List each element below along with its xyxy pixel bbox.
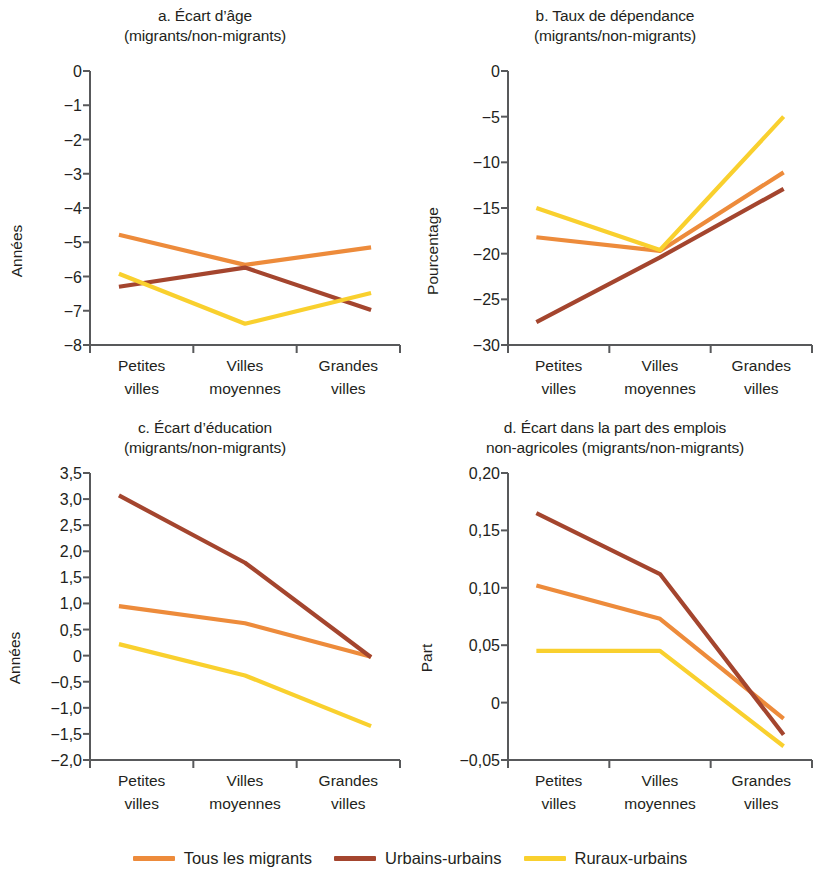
ytick-label-d: 0,05 — [469, 637, 500, 654]
ytick-label-a: −6 — [64, 269, 82, 286]
panel-d-ylabel-group: Part — [418, 643, 435, 672]
panel-c-title: c. Écart d’éducation (migrants/non-migra… — [0, 412, 410, 458]
ytick-label-a: −4 — [64, 200, 82, 217]
ytick-label-c: 2,0 — [60, 543, 82, 560]
panel-c-plot: Années 3,53,02,52,01,51,00,50−0,5−1,0−1,… — [0, 458, 410, 828]
panel-b-title-line2: (migrants/non-migrants) — [410, 26, 820, 46]
ytick-label-c: 3,0 — [60, 491, 82, 508]
ytick-label-b: −20 — [473, 246, 500, 263]
series-line-ruraux-urbains — [536, 117, 783, 250]
ytick-label-d: −0,05 — [460, 752, 501, 769]
chart-panel-a: a. Écart d’âge (migrants/non-migrants) A… — [0, 0, 410, 410]
ytick-label-d: 0,15 — [469, 522, 500, 539]
panel-d-title: d. Écart dans la part des emplois non-ag… — [410, 412, 820, 458]
panel-b-category-labels: PetitesvillesVillesmoyennesGrandesvilles — [535, 357, 791, 397]
xcat-label-c-0: Petites — [118, 772, 166, 789]
xcat-label-b-0-line2: villes — [541, 380, 576, 397]
panel-a-ytick-group: 0−1−2−3−4−5−6−7−8 — [64, 63, 90, 354]
panel-b-series-group — [536, 117, 783, 323]
ytick-label-b: −25 — [473, 291, 500, 308]
panel-d-category-labels: PetitesvillesVillesmoyennesGrandesvilles — [535, 772, 791, 812]
panel-d-ytick-group: 0,200,150,100,050−0,05 — [460, 465, 508, 769]
xcat-label-a-1-line2: moyennes — [209, 380, 281, 397]
xcat-label-d-2-line2: villes — [744, 795, 779, 812]
xcat-label-a-2: Grandes — [319, 357, 379, 374]
ytick-label-a: −7 — [64, 303, 82, 320]
xcat-label-d-0-line2: villes — [541, 795, 576, 812]
xcat-label-d-1: Villes — [642, 772, 679, 789]
ytick-label-c: 1,0 — [60, 595, 82, 612]
series-line-urbains-urbains — [536, 189, 783, 322]
panel-d-plot: Part 0,200,150,100,050−0,05 Petitesville… — [410, 458, 820, 828]
panel-a-ylabel-group: Années — [8, 224, 25, 277]
legend-swatch-1 — [334, 856, 376, 861]
ytick-label-d: 0 — [491, 695, 500, 712]
series-line-ruraux-urbains — [536, 651, 783, 746]
ytick-label-a: −8 — [64, 337, 82, 354]
xcat-label-b-1: Villes — [642, 357, 679, 374]
chart-panel-c: c. Écart d’éducation (migrants/non-migra… — [0, 412, 410, 832]
ytick-label-d: 0,20 — [469, 465, 500, 482]
legend-item-2: Ruraux-urbains — [524, 849, 688, 868]
xcat-label-b-2: Grandes — [732, 357, 792, 374]
panel-c-ytick-group: 3,53,02,52,01,51,00,50−0,5−1,0−1,5−2,0 — [50, 465, 90, 769]
ytick-label-c: 0,5 — [60, 622, 82, 639]
xcat-label-c-0-line2: villes — [124, 795, 159, 812]
xcat-label-d-1-line2: moyennes — [624, 795, 696, 812]
xcat-label-b-1-line2: moyennes — [624, 380, 696, 397]
ytick-label-c: 3,5 — [60, 465, 82, 482]
panel-a-title-line1: a. Écart d’âge — [158, 7, 252, 24]
panel-c-series-group — [119, 495, 371, 726]
legend-label-0: Tous les migrants — [184, 849, 312, 868]
legend-label-2: Ruraux-urbains — [575, 849, 688, 868]
panel-b-axis-title: Pourcentage — [424, 207, 441, 295]
xcat-label-c-1: Villes — [227, 772, 264, 789]
figure-root: a. Écart d’âge (migrants/non-migrants) A… — [0, 0, 820, 877]
legend-label-1: Urbains-urbains — [385, 849, 501, 868]
panel-b-ytick-group: 0−5−10−15−20−25−30 — [473, 63, 508, 354]
ytick-label-b: −30 — [473, 337, 500, 354]
xcat-label-c-1-line2: moyennes — [209, 795, 281, 812]
panel-c-axis-title: Années — [6, 631, 23, 684]
chart-panel-d: d. Écart dans la part des emplois non-ag… — [410, 412, 820, 832]
panel-b-title-line1: b. Taux de dépendance — [536, 7, 695, 24]
chart-legend: Tous les migrantsUrbains-urbainsRuraux-u… — [0, 840, 820, 877]
panel-a-title-line2: (migrants/non-migrants) — [0, 26, 410, 46]
ytick-label-b: 0 — [491, 63, 500, 80]
panel-d-axis-title: Part — [418, 643, 435, 672]
xcat-label-a-0-line2: villes — [124, 380, 159, 397]
legend-item-0: Tous les migrants — [133, 849, 312, 868]
ytick-label-c: 1,5 — [60, 569, 82, 586]
panel-d-xtick-group — [508, 760, 812, 768]
ytick-label-a: −5 — [64, 234, 82, 251]
series-line-ruraux-urbains — [119, 644, 371, 726]
panel-a-series-group — [119, 235, 371, 324]
xcat-label-a-2-line2: villes — [331, 380, 366, 397]
ytick-label-b: −15 — [473, 200, 500, 217]
ytick-label-a: −1 — [64, 97, 82, 114]
ytick-label-c: −0,5 — [50, 674, 82, 691]
legend-item-1: Urbains-urbains — [334, 849, 501, 868]
legend-swatch-2 — [524, 856, 566, 861]
xcat-label-d-2: Grandes — [732, 772, 792, 789]
ytick-label-c: 2,5 — [60, 517, 82, 534]
xcat-label-c-2-line2: villes — [331, 795, 366, 812]
panel-b-plot: Pourcentage 0−5−10−15−20−25−30 Petitesvi… — [410, 46, 820, 406]
panel-b-ylabel-group: Pourcentage — [424, 207, 441, 295]
panel-d-series-group — [536, 513, 783, 746]
ytick-label-c: 0 — [73, 648, 82, 665]
series-line-urbains-urbains — [119, 495, 371, 657]
panel-a-plot: Années 0−1−2−3−4−5−6−7−8 PetitesvillesVi… — [0, 46, 410, 406]
ytick-label-c: −1,0 — [50, 700, 82, 717]
xcat-label-b-0: Petites — [535, 357, 583, 374]
xcat-label-c-2: Grandes — [319, 772, 379, 789]
series-line-urbains-urbains — [536, 513, 783, 735]
ytick-label-c: −2,0 — [50, 752, 82, 769]
panel-c-title-line2: (migrants/non-migrants) — [0, 438, 410, 458]
xcat-label-b-2-line2: villes — [744, 380, 779, 397]
xcat-label-a-1: Villes — [227, 357, 264, 374]
ytick-label-b: −5 — [482, 109, 500, 126]
panel-d-title-line2: non-agricoles (migrants/non-migrants) — [410, 438, 820, 458]
panel-a-title: a. Écart d’âge (migrants/non-migrants) — [0, 0, 410, 46]
chart-panel-b: b. Taux de dépendance (migrants/non-migr… — [410, 0, 820, 410]
